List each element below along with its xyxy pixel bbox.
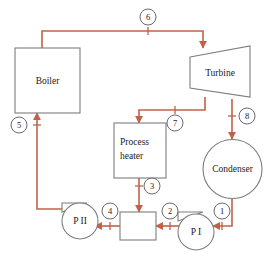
state-point-5-label: 5 <box>17 120 21 130</box>
state-point-8[interactable]: 8 <box>239 108 255 124</box>
process-heater-label-line2: heater <box>120 151 144 161</box>
state-point-6[interactable]: 6 <box>140 9 156 25</box>
state-point-3-label: 3 <box>150 181 154 191</box>
state-point-1-label: 1 <box>220 206 224 216</box>
turbine-label: Turbine <box>205 68 235 78</box>
component-condenser[interactable]: Condenser <box>203 140 262 199</box>
cogeneration-plant-diagram: Boiler Turbine Process heater Condenser … <box>0 0 274 261</box>
state-point-4[interactable]: 4 <box>102 203 118 219</box>
state-point-7[interactable]: 7 <box>167 115 183 131</box>
component-process-heater[interactable]: Process heater <box>114 123 166 178</box>
pipe-boiler-to-turbine <box>42 31 203 48</box>
component-mixing-chamber[interactable] <box>120 212 156 240</box>
state-point-7-label: 7 <box>173 118 177 128</box>
component-pump-2[interactable]: P II <box>62 203 98 239</box>
component-pump-1[interactable]: P I <box>178 212 214 250</box>
state-point-8-label: 8 <box>245 111 249 121</box>
state-point-5[interactable]: 5 <box>11 117 27 133</box>
state-point-2[interactable]: 2 <box>162 203 178 219</box>
state-point-1[interactable]: 1 <box>214 203 230 219</box>
process-heater-label-line1: Process <box>120 137 149 147</box>
state-point-6-label: 6 <box>146 12 150 22</box>
pump-1-label: P I <box>191 227 201 237</box>
boiler-label: Boiler <box>36 76 61 86</box>
condenser-label: Condenser <box>212 164 253 174</box>
state-point-2-label: 2 <box>168 206 172 216</box>
pipe-pump2-to-boiler <box>37 113 64 209</box>
mixing-chamber-body <box>120 212 156 240</box>
state-point-3[interactable]: 3 <box>144 178 160 194</box>
component-turbine[interactable]: Turbine <box>190 46 250 97</box>
pump-2-label: P II <box>73 216 87 226</box>
component-boiler[interactable]: Boiler <box>15 48 80 113</box>
